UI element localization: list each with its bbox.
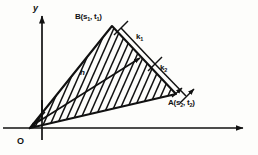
origin-label: O	[17, 137, 24, 146]
vertex-a-paren-close: )	[192, 98, 194, 107]
k2-label: k2	[160, 64, 167, 73]
k2-sub: 2	[164, 67, 167, 73]
geometry-figure: y O B(s1, t1) A(s2, t2) k1 k2 h	[0, 0, 258, 155]
k1-segment-marker	[114, 21, 162, 71]
vertex-b-paren-close: )	[99, 12, 101, 21]
k1-label: k1	[136, 33, 143, 42]
k1-sub: 1	[140, 36, 143, 42]
height-label: h	[80, 69, 85, 77]
figure-canvas	[0, 0, 258, 155]
triangle-hatching	[0, 10, 206, 150]
vertex-b-label: B(s1, t1)	[75, 13, 102, 22]
y-axis-label: y	[33, 4, 38, 13]
vertex-a-label: A(s2, t2)	[168, 99, 195, 108]
